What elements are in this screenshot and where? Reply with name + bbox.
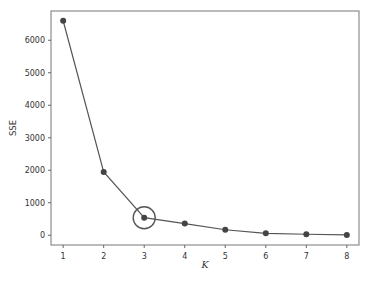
- x-axis-title: K: [200, 259, 209, 270]
- plot-area: [51, 11, 359, 245]
- sse-line: [63, 21, 347, 235]
- y-tick-label: 6000: [25, 36, 45, 45]
- data-markers: [60, 18, 350, 238]
- x-tick-label: 4: [182, 252, 187, 261]
- data-point: [303, 231, 309, 237]
- y-tick-label: 4000: [25, 101, 45, 110]
- x-tick-label: 1: [61, 252, 66, 261]
- y-axis: 0100020003000400050006000: [25, 36, 51, 240]
- x-tick-label: 2: [101, 252, 106, 261]
- x-tick-label: 6: [263, 252, 268, 261]
- y-tick-label: 2000: [25, 166, 45, 175]
- data-point: [101, 169, 107, 175]
- data-point: [222, 227, 228, 233]
- x-tick-label: 8: [344, 252, 349, 261]
- data-point: [141, 215, 147, 221]
- y-tick-label: 1000: [25, 199, 45, 208]
- data-point: [344, 232, 350, 238]
- y-tick-label: 3000: [25, 134, 45, 143]
- x-tick-label: 5: [223, 252, 228, 261]
- x-tick-label: 3: [142, 252, 147, 261]
- data-point: [182, 221, 188, 227]
- y-tick-label: 5000: [25, 69, 45, 78]
- y-tick-label: 0: [40, 231, 45, 240]
- x-tick-label: 7: [304, 252, 309, 261]
- elbow-chart: 0100020003000400050006000 12345678 SSE K: [0, 0, 370, 284]
- y-axis-title: SSE: [8, 120, 18, 136]
- data-point: [60, 18, 66, 24]
- data-point: [263, 230, 269, 236]
